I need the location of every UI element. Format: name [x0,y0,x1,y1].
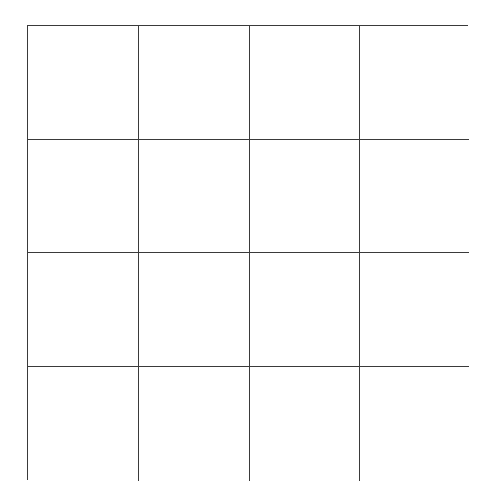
board-cell-r4-c2[interactable] [139,367,250,481]
board-cell-r2-c4[interactable] [360,140,469,253]
board-cell-r2-c3[interactable] [250,140,360,253]
board-cell-r3-c4[interactable] [360,253,469,367]
board-cell-r3-c1[interactable] [28,253,139,367]
board-cell-r1-c2[interactable] [139,26,250,140]
game-board [27,25,468,480]
board-cell-r2-c2[interactable] [139,140,250,253]
board-cell-r4-c1[interactable] [28,367,139,481]
board-cell-r4-c4[interactable] [360,367,469,481]
board-cell-r3-c3[interactable] [250,253,360,367]
board-cell-r4-c3[interactable] [250,367,360,481]
board-cell-r3-c2[interactable] [139,253,250,367]
board-cell-r1-c1[interactable] [28,26,139,140]
board-cell-r1-c4[interactable] [360,26,469,140]
board-cell-r2-c1[interactable] [28,140,139,253]
board-cell-r1-c3[interactable] [250,26,360,140]
